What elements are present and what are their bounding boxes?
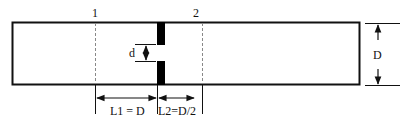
orifice-top-blade <box>157 22 165 45</box>
section-1-label: 1 <box>92 6 98 20</box>
pipe-outline <box>13 23 360 85</box>
section-2-label: 2 <box>193 6 199 20</box>
orifice-diameter-label: d <box>129 46 135 60</box>
pipe-diameter-label: D <box>373 48 382 62</box>
l1-label: L1 = D <box>110 104 145 118</box>
l2-label: L2=D/2 <box>158 104 196 118</box>
orifice-bottom-blade <box>157 61 165 85</box>
pipe-diagram: 1 2 d D L1 = D L2=D/2 <box>0 0 406 125</box>
